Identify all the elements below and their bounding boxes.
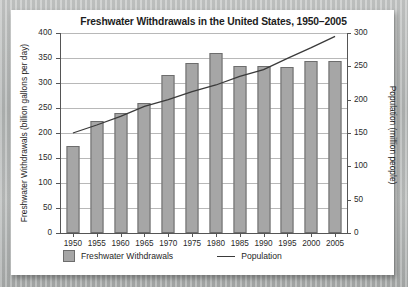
x-axis-label: 1965 [133,239,157,248]
x-axis-tick [335,233,336,237]
chart-legend: Freshwater Withdrawals Population [63,250,282,262]
y-axis-right-label: 150 [354,128,394,137]
y-axis-left-label: 150 [12,153,52,162]
x-axis-label: 1970 [156,239,180,248]
x-axis-label: 1955 [85,239,109,248]
y-axis-right-label: 250 [354,61,394,70]
x-axis-label: 2005 [323,239,347,248]
y-axis-right-label: 50 [354,195,394,204]
y-axis-right-tick [347,133,351,134]
y-axis-left-tick [56,183,60,184]
y-axis-left-tick [56,83,60,84]
y-axis-left-label: 300 [12,78,52,87]
x-axis-tick [168,233,169,237]
x-axis-label: 1975 [180,239,204,248]
y-axis-left-tick [56,133,60,134]
x-axis-tick [192,233,193,237]
y-axis-left-label: 400 [12,28,52,37]
y-axis-left-label: 100 [12,178,52,187]
line-series [61,33,347,233]
y-axis-right-tick [347,100,351,101]
y-axis-right-tick [347,166,351,167]
y-axis-left-tick [56,208,60,209]
legend-entry-withdrawals: Freshwater Withdrawals [63,250,173,262]
y-axis-left-tick [56,158,60,159]
x-axis-tick [240,233,241,237]
y-axis-left-label: 250 [12,103,52,112]
y-axis-left-label: 0 [12,228,52,237]
y-axis-left-tick [56,33,60,34]
x-axis-label: 1980 [204,239,228,248]
x-axis-tick [121,233,122,237]
x-axis-tick [311,233,312,237]
y-axis-right-tick [347,33,351,34]
plot-area: 050100150200250300350400 050100150200250… [60,33,348,234]
legend-swatch-icon [63,250,75,262]
x-axis-label: 2000 [299,239,323,248]
x-axis-label: 1990 [252,239,276,248]
y-axis-left-label: 350 [12,53,52,62]
y-axis-right-label: 0 [354,228,394,237]
x-axis-tick [264,233,265,237]
x-axis-tick [73,233,74,237]
x-axis-label: 1995 [276,239,300,248]
y-axis-right-label: 100 [354,161,394,170]
x-axis-tick [97,233,98,237]
legend-entry-population: Population [217,251,282,261]
y-axis-right-tick [347,66,351,67]
x-axis-label: 1950 [61,239,85,248]
y-axis-left-label: 200 [12,128,52,137]
y-axis-right-tick [347,200,351,201]
x-axis-tick [287,233,288,237]
x-axis-tick [216,233,217,237]
y-axis-left-tick [56,108,60,109]
y-axis-left-tick [56,58,60,59]
chart-card: Freshwater Withdrawals in the United Sta… [11,10,394,275]
legend-label-withdrawals: Freshwater Withdrawals [81,251,173,261]
x-axis-label: 1960 [109,239,133,248]
y-axis-right-label: 200 [354,95,394,104]
y-axis-left-tick [56,233,60,234]
legend-line-icon [217,256,235,257]
y-axis-right-label: 300 [354,28,394,37]
x-axis-tick [144,233,145,237]
x-axis-label: 1985 [228,239,252,248]
legend-label-population: Population [241,251,282,261]
chart-title: Freshwater Withdrawals in the United Sta… [11,16,394,27]
y-axis-left-label: 50 [12,203,52,212]
y-axis-right-tick [347,233,351,234]
